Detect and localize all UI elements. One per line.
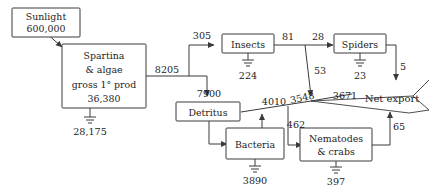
flow-value-spiders-to-export: 5 [400, 61, 406, 72]
node-label-sunlight-line2: 600,000 [27, 23, 66, 34]
sink-value-spiders: 23 [354, 70, 366, 81]
node-label-net-export: Net export [365, 93, 420, 104]
flow-value-hub-to-export: 3548 [289, 89, 315, 105]
flow-value-detritus-to-hub: 4010 [262, 96, 286, 107]
sink-symbol-spiders [354, 53, 366, 66]
node-label-detritus: Detritus [189, 107, 228, 118]
node-label-bacteria: Bacteria [235, 139, 276, 150]
flow-value-split-to-detritus: 7900 [197, 88, 221, 99]
connector-spiders-to-export [385, 45, 396, 80]
sink-symbol-insects [242, 53, 254, 66]
node-label-nematodes-line1: Nematodes [309, 133, 363, 144]
connector-detritus-to-bacteria [209, 120, 227, 144]
flow-value-insects-to-spiders: 28 [312, 31, 324, 42]
node-label-spartina-line1: Spartina [84, 50, 125, 61]
sink-value-bacteria: 3890 [243, 175, 267, 186]
connector-nematodes-to-export [370, 112, 390, 145]
node-label-spartina-line4: 36,380 [88, 93, 121, 104]
sink-symbol-nematodes [330, 161, 342, 173]
sink-symbol-bacteria [249, 159, 261, 172]
node-label-insects: Insects [231, 39, 265, 50]
flow-value-insects-to-export: 53 [314, 65, 326, 76]
flow-value-export-amount: 3671 [333, 90, 357, 101]
flow-value-hub-to-nematodes: 462 [287, 119, 305, 130]
flow-value-insects-out: 81 [282, 31, 294, 42]
node-label-spartina-line3: gross 1° prod [72, 79, 137, 90]
flow-value-split-to-insects: 305 [193, 30, 211, 41]
sink-symbol-spartina [84, 108, 96, 123]
sink-value-nematodes: 397 [327, 176, 345, 187]
energy-flow-diagram: Sunlight 600,000 Spartina & algae gross … [0, 0, 441, 196]
flow-value-nematodes-to-export: 65 [393, 121, 405, 132]
node-label-sunlight-line1: Sunlight [26, 11, 67, 22]
sink-value-insects: 224 [239, 70, 257, 81]
diagram-canvas: Sunlight 600,000 Spartina & algae gross … [0, 0, 441, 196]
node-label-nematodes-line2: & crabs [317, 146, 355, 157]
node-label-spartina-line2: & algae [85, 64, 123, 75]
sink-value-spartina: 28,175 [73, 126, 107, 137]
flow-value-spartina-to-split: 8205 [155, 64, 179, 75]
node-label-spiders: Spiders [342, 39, 378, 50]
